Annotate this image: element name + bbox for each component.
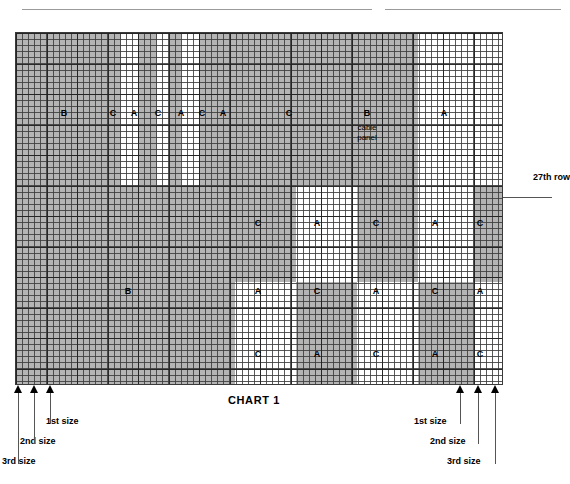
- size-label-right-2nd-size: 2nd size: [430, 436, 466, 446]
- top-rule-left: [22, 9, 372, 10]
- chart-letter-a: A: [314, 350, 321, 359]
- chart-block: [296, 185, 357, 282]
- chart-block: [16, 185, 296, 282]
- chart-block: [418, 282, 473, 344]
- size-arrow-right-2: [478, 392, 479, 444]
- chart-letter-c: C: [286, 109, 293, 118]
- chart-letter-c: C: [477, 219, 484, 228]
- cable-panel-note: cablepanel: [357, 123, 377, 142]
- chart-block: [16, 33, 121, 185]
- chart-letter-a: A: [220, 109, 227, 118]
- row-27-leader-line: [503, 197, 552, 198]
- chart-letter-c: C: [255, 350, 262, 359]
- cable-panel-line-1: cable: [357, 123, 377, 133]
- size-label-right-3rd-size: 3rd size: [447, 456, 481, 466]
- knitting-chart-grid: BCACACACBACACACBACACACACACcablepanel: [15, 32, 503, 385]
- chart-block: [296, 344, 357, 385]
- size-arrow-right-3: [495, 392, 496, 464]
- chart-letter-a: A: [477, 287, 484, 296]
- size-arrow-left-1: [18, 392, 19, 464]
- chart-letter-c: C: [155, 109, 162, 118]
- chart-block: [473, 185, 503, 282]
- chart-letter-b: B: [364, 109, 371, 118]
- cable-panel-line-2: panel: [357, 133, 377, 143]
- chart-block: [363, 33, 418, 185]
- size-arrow-left-2: [34, 392, 35, 444]
- chart-letter-c: C: [199, 109, 206, 118]
- chart-block: [235, 344, 296, 385]
- chart-letter-a: A: [314, 219, 321, 228]
- chart-block: [357, 344, 418, 385]
- size-arrow-left-3: [50, 392, 51, 424]
- top-rule-right: [385, 9, 561, 10]
- chart-block: [296, 282, 357, 344]
- chart-letter-b: B: [61, 109, 68, 118]
- chart-letter-a: A: [178, 109, 185, 118]
- chart-letter-c: C: [314, 287, 321, 296]
- chart-letter-a: A: [441, 109, 448, 118]
- chart-letter-b: B: [125, 287, 132, 296]
- chart-letter-a: A: [131, 109, 138, 118]
- chart-letter-a: A: [432, 350, 439, 359]
- chart-letter-c: C: [432, 287, 439, 296]
- chart-block: [357, 185, 418, 282]
- size-arrow-right-1: [460, 392, 461, 424]
- chart-block: [357, 282, 418, 344]
- row-27-label: 27th row: [533, 172, 570, 182]
- chart-letter-a: A: [373, 287, 380, 296]
- chart-letter-c: C: [373, 219, 380, 228]
- chart-letter-c: C: [373, 350, 380, 359]
- chart-letter-a: A: [255, 287, 262, 296]
- chart-letter-a: A: [432, 219, 439, 228]
- chart-letter-c: C: [477, 350, 484, 359]
- size-label-left-2nd-size: 2nd size: [20, 436, 56, 446]
- size-label-right-1st-size: 1st size: [414, 416, 447, 426]
- chart-title: CHART 1: [228, 394, 280, 406]
- chart-block: [418, 185, 473, 282]
- chart-block: [418, 33, 503, 185]
- chart-letter-c: C: [255, 219, 262, 228]
- chart-letter-c: C: [110, 109, 117, 118]
- chart-block: [418, 344, 473, 385]
- chart-block: [16, 344, 235, 385]
- chart-block: [235, 282, 296, 344]
